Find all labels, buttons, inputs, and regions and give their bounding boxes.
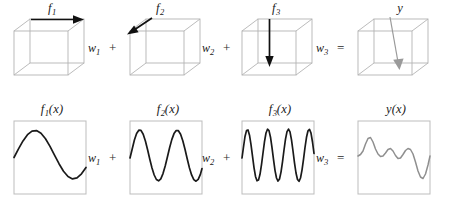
- plot-frame: [14, 121, 86, 194]
- weight-w1-cubes: w1: [88, 42, 100, 55]
- plot-frame: [358, 121, 430, 194]
- weight-w2-cubes: w2: [202, 42, 214, 55]
- cube-wireframe: [14, 19, 84, 75]
- weight-w1-plots: w1: [88, 152, 100, 165]
- plot-graphic-y: [348, 102, 444, 204]
- cube-graphic-f1: [4, 0, 100, 102]
- sine-curve-f3: [242, 129, 314, 181]
- cube-wireframe: [358, 19, 428, 75]
- plot-graphic-f1: [4, 102, 100, 204]
- weight-w3-plots: w3: [316, 152, 328, 165]
- operator-equals-plots: =: [337, 152, 344, 164]
- force-arrow-f1: [31, 15, 84, 23]
- cube-wireframe: [130, 19, 200, 75]
- weighted-sum-figure: f1 w1: [0, 0, 462, 204]
- cube-panel-f3: f3: [232, 0, 328, 102]
- resultant-arrow-y: [390, 17, 404, 70]
- cube-panel-y: y: [348, 0, 444, 102]
- sine-curve-f1: [14, 131, 86, 179]
- cube-row: f1 w1: [0, 0, 462, 102]
- plot-panel-f1: f1(x): [4, 102, 100, 204]
- force-arrow-f2: [127, 18, 152, 35]
- cube-graphic-f3: [232, 0, 328, 102]
- composite-curve-y: [358, 138, 430, 179]
- operator-plus-2-cubes: +: [223, 42, 230, 54]
- cube-panel-f1: f1: [4, 0, 100, 102]
- weight-w3-cubes: w3: [316, 42, 328, 55]
- force-arrow-f3: [265, 19, 273, 67]
- sine-curve-f2: [130, 130, 202, 181]
- plot-row: f1(x) w1 + f2(x) w2 + f3(x): [0, 102, 462, 204]
- plot-panel-f3: f3(x): [232, 102, 328, 204]
- plot-frame: [130, 121, 202, 194]
- operator-plus-2-plots: +: [223, 152, 230, 164]
- operator-plus-1-cubes: +: [109, 42, 116, 54]
- operator-plus-1-plots: +: [109, 152, 116, 164]
- weight-w2-plots: w2: [202, 152, 214, 165]
- plot-graphic-f3: [232, 102, 328, 204]
- cube-wireframe: [242, 19, 312, 75]
- cube-graphic-y: [348, 0, 444, 102]
- plot-panel-y: y(x): [348, 102, 444, 204]
- operator-equals-cubes: =: [337, 42, 344, 54]
